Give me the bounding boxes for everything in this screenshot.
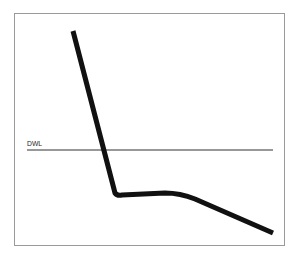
- hull-profile-curve: [73, 31, 273, 233]
- diagram-canvas: [0, 0, 298, 256]
- waterline-label: DWL: [27, 139, 42, 148]
